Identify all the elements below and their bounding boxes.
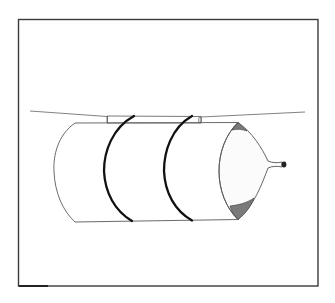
balloon-knot [282,162,287,168]
rubber-band-1 [104,116,134,221]
diagram-canvas: Balloon rocket on a string [0,0,335,303]
tube [54,123,238,223]
balloon [219,123,286,220]
border-frame [19,20,319,287]
rubber-band-2 [164,116,192,221]
